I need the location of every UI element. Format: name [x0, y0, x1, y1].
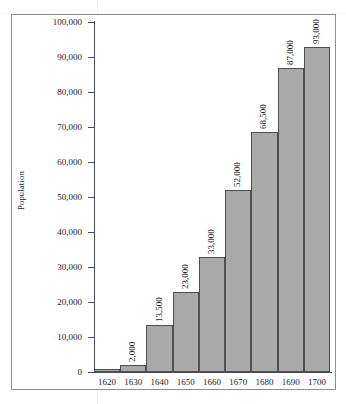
x-axis-tick-label: 1650 — [173, 377, 199, 388]
y-axis-tick-label: 30,000 — [57, 261, 82, 273]
bar[interactable] — [120, 365, 146, 372]
y-axis-tick: 0 — [0, 366, 94, 378]
y-axis-tick: 50,000 — [0, 191, 94, 203]
bar-group: 87,000 — [278, 22, 304, 372]
x-axis-tick-label: 1700 — [304, 377, 330, 388]
x-axis-tick-label: 1680 — [251, 377, 277, 388]
y-axis-tick-label: 20,000 — [57, 296, 82, 308]
x-axis-tick-label: 1620 — [94, 377, 120, 388]
bar-group: 33,000 — [199, 22, 225, 372]
bar-value-label: 2,000 — [128, 342, 137, 362]
bar[interactable] — [304, 47, 330, 373]
y-axis-tick: 10,000 — [0, 331, 94, 343]
bar-group — [94, 22, 120, 372]
y-axis-tick-label: 40,000 — [57, 226, 82, 238]
x-axis-line — [94, 372, 332, 373]
y-axis-tick-label: 0 — [78, 366, 83, 378]
plot-area: 2,00013,50023,00033,00052,00068,50087,00… — [94, 22, 330, 372]
bar-value-label: 23,000 — [181, 264, 190, 289]
y-axis-tick: 100,000 — [0, 16, 94, 28]
y-axis-tick-label: 80,000 — [57, 86, 82, 98]
y-axis-tick: 20,000 — [0, 296, 94, 308]
y-axis-tick: 40,000 — [0, 226, 94, 238]
bar-value-label: 68,500 — [259, 105, 268, 130]
bar-group: 93,000 — [304, 22, 330, 372]
x-axis-tick-label: 1630 — [120, 377, 146, 388]
bar[interactable] — [278, 68, 304, 373]
y-axis-tick-label: 50,000 — [57, 191, 82, 203]
y-axis-tick: 60,000 — [0, 156, 94, 168]
bar-group: 13,500 — [146, 22, 172, 372]
x-axis-tick-label: 1640 — [146, 377, 172, 388]
bar[interactable] — [199, 257, 225, 373]
y-axis-tick-label: 70,000 — [57, 121, 82, 133]
y-axis-tick: 30,000 — [0, 261, 94, 273]
bar[interactable] — [251, 132, 277, 372]
y-axis-tick-label: 10,000 — [57, 331, 82, 343]
y-axis-tick-label: 100,000 — [53, 16, 82, 28]
y-axis-tick: 70,000 — [0, 121, 94, 133]
bar-group: 23,000 — [173, 22, 199, 372]
bar-group: 68,500 — [251, 22, 277, 372]
bar-value-label: 93,000 — [312, 19, 321, 44]
y-axis-tick: 80,000 — [0, 86, 94, 98]
bar[interactable] — [225, 190, 251, 372]
y-axis-tick: 90,000 — [0, 51, 94, 63]
y-axis-tick-mark — [88, 372, 94, 373]
x-axis-tick-label: 1670 — [225, 377, 251, 388]
bar[interactable] — [94, 369, 120, 373]
bar[interactable] — [146, 325, 172, 372]
bar-value-label: 52,000 — [233, 162, 242, 187]
bar[interactable] — [173, 292, 199, 373]
x-axis-tick-label: 1660 — [199, 377, 225, 388]
bar-group: 52,000 — [225, 22, 251, 372]
y-axis-tick-label: 60,000 — [57, 156, 82, 168]
bar-value-label: 33,000 — [207, 229, 216, 254]
bar-group: 2,000 — [120, 22, 146, 372]
y-axis-tick-label: 90,000 — [57, 51, 82, 63]
bar-value-label: 13,500 — [155, 297, 164, 322]
x-axis-tick-label: 1690 — [278, 377, 304, 388]
bar-value-label: 87,000 — [286, 40, 295, 65]
